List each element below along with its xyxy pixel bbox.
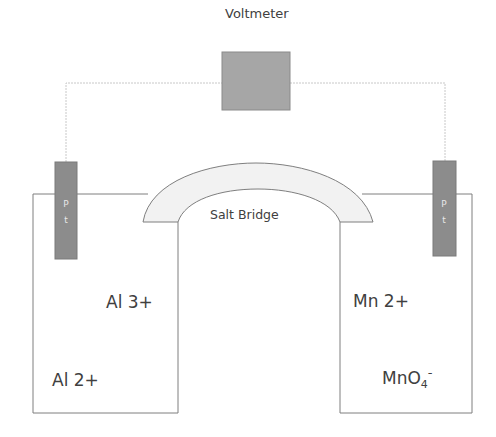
voltmeter-label: Voltmeter xyxy=(225,6,289,21)
left-electrode-label-t: t xyxy=(55,212,77,228)
ion-al2: Al 2+ xyxy=(52,370,99,390)
ion-mn2: Mn 2+ xyxy=(353,291,409,311)
left-electrode-label-p: P xyxy=(55,196,77,212)
right-electrode-label-t: t xyxy=(433,212,455,228)
ion-al3: Al 3+ xyxy=(106,292,153,312)
ion-mno4: MnO4- xyxy=(382,365,433,391)
salt-bridge-label: Salt Bridge xyxy=(210,207,279,222)
voltmeter xyxy=(222,52,290,110)
right-electrode-label-p: P xyxy=(433,196,455,212)
